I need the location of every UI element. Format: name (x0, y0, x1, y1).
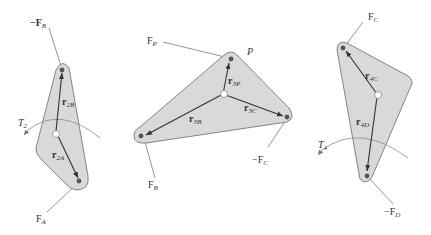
label-fc4: FC (368, 11, 379, 24)
pivot-o2 (53, 131, 60, 138)
pin-c3 (285, 115, 290, 120)
pin-b (60, 68, 65, 73)
pin-d (365, 174, 370, 179)
label-t4: T4 (318, 139, 328, 152)
label-point-p: P (246, 46, 253, 57)
force-line-fb (144, 138, 155, 178)
label-fp: FP (147, 35, 158, 48)
pin-a (77, 179, 82, 184)
label-fa: FA (36, 213, 47, 226)
label-neg-fb: −FB (30, 17, 47, 30)
link-3-body (134, 52, 292, 143)
force-line-fp (163, 42, 229, 58)
link-2-body (36, 63, 88, 190)
label-t2: T2 (18, 117, 28, 130)
pivot-o4 (375, 92, 382, 99)
pin-p (229, 57, 234, 62)
free-body-diagrams: −FB r2B r2A T2 FA FP P r3P r3B r3C FB −F… (0, 0, 431, 235)
label-neg-fd: −FD (384, 206, 400, 219)
center-g3 (221, 91, 228, 98)
torque-arrow-t4 (318, 150, 322, 155)
force-line-fc4 (345, 22, 363, 46)
pin-b3 (139, 134, 144, 139)
link-4: FC r4C r4D T4 −FD (318, 11, 412, 219)
force-line-neg-fb (49, 28, 61, 66)
link-3: FP P r3P r3B r3C FB −FC (134, 35, 292, 192)
label-fb3: FB (148, 179, 159, 192)
force-line-neg-fd (369, 178, 393, 204)
link-2: −FB r2B r2A T2 FA (18, 17, 100, 226)
label-neg-fc: −FC (252, 154, 268, 167)
torque-arrow-t2 (24, 130, 28, 135)
pin-c4 (341, 46, 346, 51)
